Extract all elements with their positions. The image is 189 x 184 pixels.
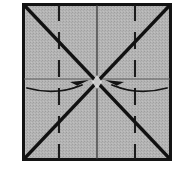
origami-diagram-container: Origami square fold step origami-fold-in… — [0, 0, 189, 184]
origami-fold-diagram — [0, 0, 189, 184]
